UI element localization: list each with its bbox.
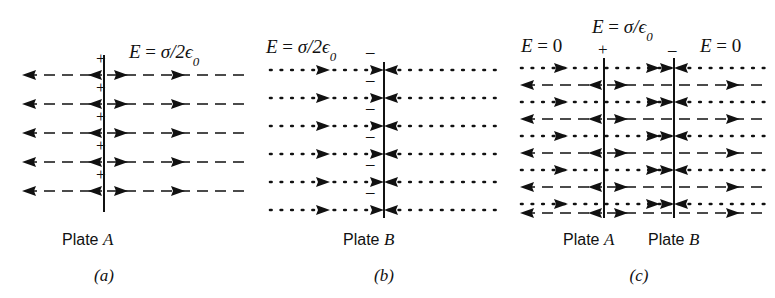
- panel-a-field-label: E = σ/2ϵ0: [128, 41, 200, 69]
- field-row: [22, 157, 248, 167]
- svg-text:+: +: [96, 136, 106, 155]
- svg-text:–: –: [365, 42, 375, 61]
- panel-b-plate-label: Plate B: [343, 230, 395, 249]
- field-row-dotted: [521, 199, 766, 209]
- panel-a-plate-label: Plate A: [62, 230, 114, 249]
- electric-field-plates-figure: E = σ/2ϵ0 + + + + +: [0, 0, 775, 298]
- panel-c-outer-right-label: E = 0: [699, 35, 741, 56]
- svg-text:+: +: [96, 49, 106, 68]
- field-row-dotted: [521, 97, 766, 107]
- field-row: [22, 70, 248, 80]
- panel-c: E = σ/ϵ0 E = 0 E = 0 + –: [520, 16, 766, 285]
- field-row-dashed: [520, 208, 766, 218]
- panel-c-plate-a-label: Plate A: [563, 230, 615, 249]
- field-row-dotted: [521, 63, 766, 73]
- panel-b-caption: (b): [374, 266, 394, 285]
- panel-a: E = σ/2ϵ0 + + + + +: [22, 41, 248, 285]
- field-row: [22, 186, 248, 196]
- panel-c-field-rows: [520, 63, 766, 218]
- svg-text:+: +: [96, 107, 106, 126]
- svg-text:+: +: [96, 78, 106, 97]
- field-row-dashed: [520, 148, 766, 158]
- panel-b-field-label: E = σ/2ϵ0: [265, 36, 337, 64]
- field-row: [22, 99, 248, 109]
- panel-a-field-rows: [22, 70, 248, 196]
- field-row-dotted: [521, 165, 766, 175]
- field-row: [22, 128, 248, 138]
- panel-c-outer-left-label: E = 0: [520, 35, 562, 56]
- field-row-dotted: [521, 131, 766, 141]
- panel-a-caption: (a): [94, 266, 114, 285]
- panel-c-plate-b-label: Plate B: [648, 230, 700, 249]
- panel-c-plate-b-sign: –: [667, 40, 677, 59]
- field-row-dashed: [520, 114, 766, 124]
- panel-c-plate-a-sign: +: [598, 40, 608, 59]
- panel-b-charge-signs: – – – – – –: [365, 42, 375, 201]
- field-row-dashed: [520, 80, 766, 90]
- panel-b: E = σ/2ϵ0 – – – – – –: [265, 36, 498, 285]
- panel-c-caption: (c): [630, 266, 649, 285]
- svg-text:+: +: [96, 165, 106, 184]
- field-row-dashed: [520, 182, 766, 192]
